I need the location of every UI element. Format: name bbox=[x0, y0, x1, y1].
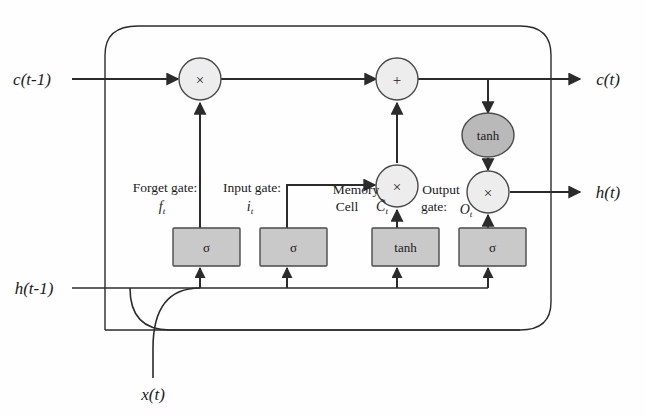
operator-forget-multiply-glyph: × bbox=[196, 72, 204, 88]
gate-box-memory-cell-label: tanh bbox=[394, 240, 417, 255]
activation-node-cell-tanh-label: tanh bbox=[477, 128, 500, 143]
lstm-diagram-canvas: σ σ tanh σ × + × × bbox=[0, 0, 646, 417]
gate-box-input[interactable]: σ bbox=[260, 228, 327, 266]
operator-cell-add[interactable]: + bbox=[376, 58, 418, 100]
gate-caption-output: Output gate: Ot bbox=[421, 182, 473, 219]
gate-caption-input-symbol: it bbox=[247, 199, 254, 216]
io-label-h-out: h(t) bbox=[596, 183, 621, 202]
gate-box-memory-cell[interactable]: tanh bbox=[372, 228, 439, 266]
gate-caption-memory-cell-line1: Memory bbox=[333, 182, 380, 197]
operator-cell-add-glyph: + bbox=[393, 72, 401, 88]
input-feed-curve bbox=[153, 288, 200, 378]
gate-box-input-label: σ bbox=[290, 240, 297, 255]
io-label-c-out: c(t) bbox=[596, 70, 620, 89]
gate-caption-input: Input gate: it bbox=[223, 180, 281, 216]
io-label-x-input: x(t) bbox=[140, 385, 165, 404]
gate-caption-forget: Forget gate: ft bbox=[133, 180, 198, 216]
gate-caption-forget-line1: Forget gate: bbox=[133, 180, 198, 195]
gate-caption-output-line2: gate: bbox=[421, 199, 447, 214]
gate-box-output-label: σ bbox=[489, 240, 496, 255]
io-label-c-prev: c(t-1) bbox=[13, 70, 51, 89]
gate-caption-input-line1: Input gate: bbox=[223, 180, 281, 195]
io-label-h-prev: h(t-1) bbox=[15, 279, 54, 298]
gate-caption-memory-cell-line2: Cell bbox=[336, 199, 359, 214]
gate-caption-forget-symbol: ft bbox=[159, 199, 166, 216]
gate-box-forget-label: σ bbox=[203, 240, 210, 255]
gate-box-output[interactable]: σ bbox=[459, 228, 526, 266]
operator-output-multiply-glyph: × bbox=[484, 185, 492, 201]
operator-output-multiply[interactable]: × bbox=[467, 171, 509, 213]
gate-caption-output-line1: Output bbox=[422, 182, 460, 197]
gate-box-forget[interactable]: σ bbox=[173, 228, 240, 266]
hidden-feed-curve bbox=[130, 288, 170, 330]
activation-node-cell-tanh[interactable]: tanh bbox=[462, 113, 514, 157]
lstm-cell-diagram: σ σ tanh σ × + × × bbox=[0, 0, 646, 417]
operator-input-multiply-glyph: × bbox=[393, 179, 401, 195]
operator-forget-multiply[interactable]: × bbox=[179, 58, 221, 100]
